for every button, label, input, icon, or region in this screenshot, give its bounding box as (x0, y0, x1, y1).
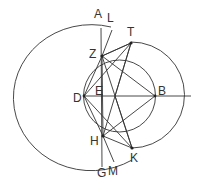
label-K: K (130, 151, 138, 165)
label-E: E (95, 84, 103, 98)
point-Z (100, 54, 103, 57)
label-L: L (107, 11, 114, 25)
line-HB (103, 96, 155, 136)
line-TX (115, 43, 131, 96)
point-D (83, 95, 86, 98)
label-M: M (108, 164, 118, 178)
geometry-diagram: A L T Z D E B H K G M (0, 0, 201, 184)
label-D: D (73, 91, 82, 105)
label-B: B (158, 84, 166, 98)
label-H: H (90, 134, 99, 148)
point-B (154, 95, 157, 98)
label-G: G (97, 166, 106, 180)
point-T (129, 41, 132, 44)
point-H (101, 134, 104, 137)
line-DH (84, 96, 103, 136)
label-T: T (127, 25, 135, 39)
line-ZB (102, 56, 155, 96)
point-K (130, 146, 133, 149)
label-A: A (94, 7, 102, 21)
label-Z: Z (89, 47, 96, 61)
line-KX (115, 96, 132, 148)
